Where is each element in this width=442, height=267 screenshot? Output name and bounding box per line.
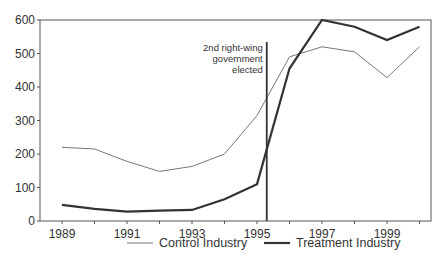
y-tick-label: 600	[15, 13, 35, 27]
y-tick-label: 0	[28, 214, 35, 228]
x-tick-label: 1991	[114, 227, 141, 241]
x-tick-label: 1995	[244, 227, 271, 241]
y-tick-label: 200	[15, 147, 35, 161]
y-axis: 0100200300400500600	[15, 13, 40, 228]
y-tick-label: 500	[15, 47, 35, 61]
y-tick-label: 100	[15, 181, 35, 195]
x-tick-label: 1989	[49, 227, 76, 241]
y-tick-label: 400	[15, 80, 35, 94]
annotation-text: government	[213, 53, 264, 64]
annotation-text: elected	[232, 64, 263, 75]
legend-label: Treatment Industry	[296, 236, 401, 250]
y-tick-label: 300	[15, 114, 35, 128]
line-chart: 0100200300400500600 19891991199319951997…	[0, 0, 442, 267]
legend-label: Control Industry	[159, 236, 248, 250]
annotation-text: 2nd right-wing	[203, 42, 263, 53]
